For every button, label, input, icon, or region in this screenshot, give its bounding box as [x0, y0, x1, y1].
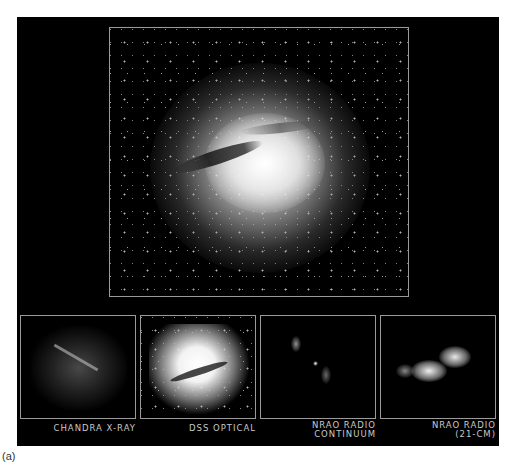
label-line1: DSS Optical [189, 423, 256, 433]
label-nrao-radio-continuum: NRAO RadioContinuum [312, 421, 376, 439]
panel-chandra-xray [20, 315, 136, 419]
label-line1: Chandra X-ray [54, 423, 137, 433]
figure-panel: Chandra X-ray DSS Optical NRAO RadioCont… [17, 17, 499, 446]
main-galaxy-image [109, 27, 409, 297]
label-nrao-radio-21cm: NRAO Radio(21-cm) [432, 421, 496, 439]
label-line2: (21-cm) [455, 429, 496, 439]
panel-labels: Chandra X-ray DSS Optical NRAO RadioCont… [17, 421, 499, 446]
panel-dss-optical [140, 315, 256, 419]
xray-emission [31, 326, 127, 410]
panel-nrao-radio-21cm [380, 315, 496, 419]
radio-core [313, 361, 318, 366]
panel-nrao-radio-continuum [260, 315, 376, 419]
figure-caption: (a) [2, 450, 15, 462]
radio-lobe-south [321, 366, 331, 384]
label-chandra-xray: Chandra X-ray [54, 424, 137, 433]
radio-lobe-north [291, 336, 301, 352]
hi-cloud-right [439, 346, 471, 368]
label-line2: Continuum [314, 429, 376, 439]
label-dss-optical: DSS Optical [189, 424, 256, 433]
